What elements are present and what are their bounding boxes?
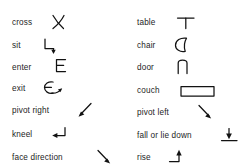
legend-label-sit: sit: [12, 41, 21, 51]
legend-entry-fall-or-lie-down: fall or lie down: [137, 125, 192, 147]
kneel-return-arrow: [50, 125, 70, 143]
sit-corner-down-arrow: [42, 37, 60, 55]
legend-label-pivot-right: pivot right: [12, 106, 49, 116]
chair-teardrop-symbol: [173, 36, 193, 54]
pivot-right-up-arrow: [76, 101, 96, 119]
legend-label-cross: cross: [12, 18, 32, 28]
actions-column: cross sit enter: [12, 0, 130, 168]
legend-entry-couch: couch: [137, 80, 160, 102]
exit-e-with-arrow: [42, 79, 70, 97]
cross-x-symbol: [50, 14, 68, 30]
legend-label-pivot-left: pivot left: [137, 108, 169, 118]
legend-label-couch: couch: [137, 86, 160, 96]
pivot-left-down-arrow: [195, 103, 215, 121]
legend-entry-door: door: [137, 57, 154, 79]
legend-entry-kneel: kneel: [12, 124, 32, 146]
legend-label-face-direction: face direction: [12, 153, 63, 163]
legend-entry-pivot-left: pivot left: [137, 102, 169, 124]
legend-label-fall-or-lie-down: fall or lie down: [137, 131, 192, 141]
legend-entry-enter: enter: [12, 57, 31, 79]
legend-entry-sit: sit: [12, 35, 21, 57]
legend-label-enter: enter: [12, 63, 31, 73]
legend-label-kneel: kneel: [12, 130, 32, 140]
legend-entry-rise: rise: [137, 147, 151, 168]
legend-entry-exit: exit: [12, 78, 25, 100]
enter-letter-e: [54, 57, 70, 75]
legend-entry-chair: chair: [137, 35, 156, 57]
table-tee-symbol: [175, 15, 197, 31]
fall-down-arrow-ground: [219, 127, 241, 144]
objects-column: table chair door: [137, 0, 250, 168]
symbol-legend: cross sit enter: [0, 0, 250, 168]
legend-label-door: door: [137, 63, 154, 73]
face-direction-arrow: [94, 148, 114, 166]
legend-label-chair: chair: [137, 41, 156, 51]
legend-label-rise: rise: [137, 153, 151, 163]
legend-entry-pivot-right: pivot right: [12, 100, 49, 122]
legend-label-table: table: [137, 18, 156, 28]
couch-rectangle-symbol: [179, 84, 217, 99]
legend-entry-cross: cross: [12, 12, 32, 34]
legend-label-exit: exit: [12, 84, 25, 94]
legend-entry-face-direction: face direction: [12, 147, 63, 168]
rise-up-arrow: [167, 148, 189, 166]
legend-entry-table: table: [137, 12, 156, 34]
door-arch-symbol: [175, 58, 193, 76]
